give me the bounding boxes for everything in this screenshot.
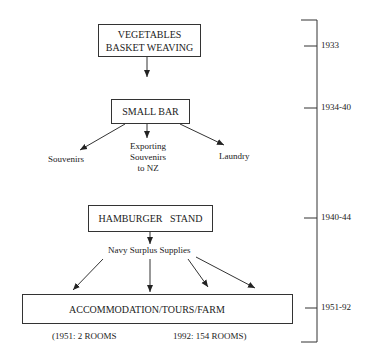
exporting-line2: Souvenirs [127,152,169,163]
basket-weaving-label: BASKET WEAVING [106,41,194,54]
rooms-1951-label: (1951: 2 ROOMS [52,331,117,342]
accommodation-tours-farm-box: ACCOMMODATION/TOURS/FARM [22,294,293,324]
laundry-label: Laundry [219,151,250,162]
accommodation-label: ACCOMMODATION/TOURS/FARM [69,303,225,316]
exporting-line3: to NZ [127,163,169,174]
souvenirs-label: Souvenirs [48,154,84,165]
vegetables-basket-weaving-box: VEGETABLES BASKET WEAVING [98,24,201,57]
timeline-1951-92: 1951-92 [321,302,351,312]
small-bar-box: SMALL BAR [111,99,190,124]
exporting-line1: Exporting [127,141,169,152]
hamburger-stand-box: HAMBURGER STAND [88,205,213,232]
timeline-1940-44: 1940-44 [321,212,351,222]
rooms-1992-label: 1992: 154 ROOMS) [173,331,247,342]
exporting-souvenirs-label: Exporting Souvenirs to NZ [127,141,169,174]
vegetables-label: VEGETABLES [106,28,194,41]
hamburger-stand-label: HAMBURGER STAND [99,212,203,225]
timeline-1934-40: 1934-40 [321,102,351,112]
small-bar-label: SMALL BAR [122,105,179,118]
navy-surplus-label: Navy Surplus Supplies [108,245,191,256]
timeline-1933: 1933 [321,40,339,50]
